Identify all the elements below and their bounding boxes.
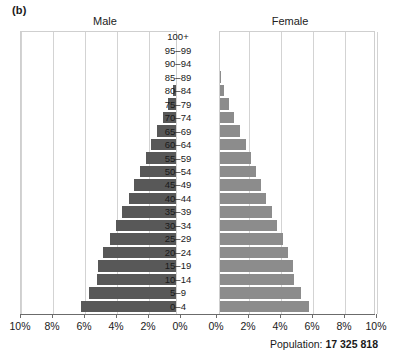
bar-female	[216, 220, 277, 231]
bar-female	[216, 274, 294, 285]
x-tick-mark	[20, 314, 21, 318]
x-tick-label: 0%	[160, 320, 200, 332]
bar-female	[216, 152, 251, 163]
age-group-label: 25–29	[156, 233, 200, 244]
age-group-label: 0–4	[156, 301, 200, 312]
age-group-label: 50–54	[156, 166, 200, 177]
bar-female	[216, 247, 288, 258]
x-tick-mark	[312, 314, 313, 318]
x-tick-mark	[216, 314, 217, 318]
x-tick-mark	[84, 314, 85, 318]
x-tick-mark	[180, 314, 181, 318]
population-value: 17 325 818	[325, 338, 378, 350]
age-group-label: 65–69	[156, 126, 200, 137]
age-group-label: 70–74	[156, 112, 200, 123]
x-tick-mark	[376, 314, 377, 318]
population-pyramid-figure: (b) Male Female Population: 17 325 818 1…	[0, 0, 396, 359]
column-header-male: Male	[50, 15, 160, 27]
x-tick-mark	[148, 314, 149, 318]
bar-female	[216, 193, 266, 204]
x-tick-label: 10%	[356, 320, 396, 332]
gridline-9	[377, 32, 378, 314]
age-group-label: 100+	[156, 31, 200, 42]
x-tick-mark	[116, 314, 117, 318]
age-group-label: 15–19	[156, 260, 200, 271]
bar-female	[216, 260, 293, 271]
age-group-label: 30–34	[156, 220, 200, 231]
age-group-label: 95–99	[156, 45, 200, 56]
bar-female	[216, 287, 301, 298]
age-group-label: 35–39	[156, 206, 200, 217]
age-group-label: 60–64	[156, 139, 200, 150]
age-group-label: 80–84	[156, 85, 200, 96]
age-group-label: 10–14	[156, 274, 200, 285]
x-tick-mark	[248, 314, 249, 318]
age-group-label: 90–94	[156, 58, 200, 69]
age-group-label: 5–9	[156, 287, 200, 298]
age-group-label: 85–89	[156, 72, 200, 83]
panel-label: (b)	[12, 4, 27, 16]
x-axis-line	[20, 314, 375, 315]
bar-female	[216, 166, 256, 177]
bar-female	[216, 179, 261, 190]
x-tick-mark	[52, 314, 53, 318]
bar-female	[216, 233, 283, 244]
age-group-label: 40–44	[156, 193, 200, 204]
age-group-label: 45–49	[156, 179, 200, 190]
population-label: Population:	[270, 338, 323, 350]
age-group-label: 75–79	[156, 99, 200, 110]
bar-female	[216, 301, 309, 312]
population-footer: Population: 17 325 818	[270, 338, 378, 350]
x-tick-mark	[344, 314, 345, 318]
age-group-label: 55–59	[156, 153, 200, 164]
bar-female	[216, 206, 272, 217]
bar-female	[216, 139, 246, 150]
age-group-label: 20–24	[156, 247, 200, 258]
column-header-female: Female	[235, 15, 345, 27]
x-tick-mark	[280, 314, 281, 318]
